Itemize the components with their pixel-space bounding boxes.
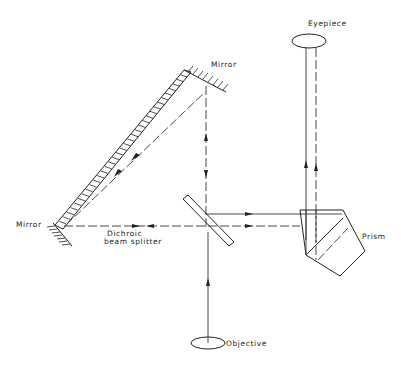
hatch-line: [154, 107, 161, 110]
arrow-up: [304, 160, 308, 168]
arrow-up: [206, 278, 210, 286]
optical-diagram: Eyepiece Mirror Mirror: [0, 0, 401, 366]
mirror-top-hatching: [188, 66, 228, 90]
arrow-down-left: [131, 153, 140, 161]
hatch-line: [82, 194, 89, 197]
arrow-up: [204, 133, 208, 141]
eyepiece-lens: [292, 34, 326, 48]
mirror-top-label: Mirror: [211, 60, 237, 69]
hatch-line: [169, 88, 176, 91]
hatch-line: [139, 125, 146, 128]
arrow-right: [245, 224, 253, 228]
arrow-down: [204, 170, 208, 178]
hatch-line: [131, 134, 138, 137]
hatch-line: [173, 84, 180, 87]
hatch-line: [135, 130, 142, 133]
hatch-line: [142, 120, 149, 123]
hatch-line: [63, 217, 70, 220]
hatch-line: [112, 157, 119, 160]
prism-label: Prism: [362, 232, 386, 241]
hatch-line: [86, 189, 93, 192]
hatch-line: [78, 198, 85, 201]
prism: [300, 210, 365, 276]
dichroic-label-line2: beam splitter: [104, 237, 162, 246]
arrow-right: [132, 224, 140, 228]
objective-label: Objective: [226, 339, 267, 348]
hatch-line: [67, 212, 74, 215]
hatch-line: [116, 153, 123, 156]
hatch-line: [108, 162, 115, 165]
arrow-right: [245, 212, 253, 216]
hatch-line: [180, 75, 187, 78]
hatch-line: [97, 176, 104, 179]
mirror-left-label: Mirror: [16, 220, 42, 229]
dichroic-beam-splitter: [183, 195, 234, 246]
hatch-line: [101, 171, 108, 174]
hatch-line: [127, 139, 134, 142]
hatch-line: [124, 143, 131, 146]
hatch-line: [158, 102, 165, 105]
mirror-arm-hatching: [59, 75, 187, 224]
arrow-up: [314, 163, 318, 171]
hatch-line: [161, 98, 168, 101]
hatch-line: [105, 166, 112, 169]
hatch-line: [90, 185, 97, 188]
prism-inner-dashed: [318, 228, 348, 260]
hatch-line: [150, 111, 157, 114]
hatch-line: [59, 221, 66, 224]
hatch-line: [165, 93, 172, 96]
eyepiece-label: Eyepiece: [308, 19, 347, 28]
mirror-left-hatching: [47, 226, 70, 245]
arrow-left: [146, 224, 154, 228]
hatch-line: [74, 203, 81, 206]
prism-inner-edge: [306, 218, 343, 255]
hatch-line: [176, 79, 183, 82]
hatch-line: [146, 116, 153, 119]
beam-diagonal: [66, 92, 205, 225]
hatch-line: [93, 180, 100, 183]
hatch-line: [120, 148, 127, 151]
hatch-line: [71, 208, 78, 211]
